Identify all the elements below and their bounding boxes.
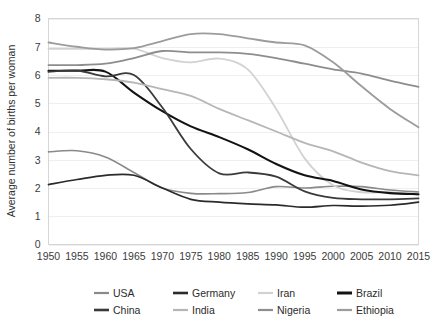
y-tick-label: 8 <box>35 12 41 24</box>
legend-item-ethiopia[interactable]: Ethiopia <box>337 304 394 316</box>
legend-item-china[interactable]: China <box>94 304 141 316</box>
y-tick-label: 2 <box>35 182 41 194</box>
x-tick-label: 1970 <box>151 250 175 262</box>
y-tick-label: 0 <box>35 238 41 250</box>
y-axis-tick-labels: 012345678 <box>35 12 41 250</box>
x-tick-label: 1955 <box>65 250 89 262</box>
legend-item-nigeria[interactable]: Nigeria <box>258 304 310 316</box>
legend-item-india[interactable]: India <box>173 304 215 316</box>
chart-container: 012345678 195019551960196519701975198019… <box>0 0 437 336</box>
legend-label: Germany <box>192 287 236 299</box>
legend-item-usa[interactable]: USA <box>94 287 135 299</box>
line-chart: 012345678 195019551960196519701975198019… <box>0 0 437 336</box>
y-tick-label: 5 <box>35 97 41 109</box>
legend-label: Iran <box>277 287 295 299</box>
x-tick-label: 1995 <box>293 250 317 262</box>
legend-item-brazil[interactable]: Brazil <box>337 287 382 299</box>
legend-label: Brazil <box>356 287 382 299</box>
x-tick-label: 1960 <box>94 250 118 262</box>
x-tick-label: 2015 <box>407 250 431 262</box>
series-line-nigeria <box>49 51 419 87</box>
y-tick-label: 7 <box>35 41 41 53</box>
series-line-china <box>49 70 419 199</box>
x-tick-label: 1965 <box>122 250 146 262</box>
series-line-usa <box>49 150 419 193</box>
legend-label: China <box>113 304 141 316</box>
chart-legend: USAGermanyIranBrazilChinaIndiaNigeriaEth… <box>94 287 394 316</box>
x-tick-label: 1990 <box>265 250 289 262</box>
x-tick-label: 2000 <box>321 250 345 262</box>
x-axis-tick-labels: 1950195519601965197019751980198519901995… <box>37 250 431 262</box>
x-tick-label: 2005 <box>350 250 374 262</box>
legend-item-iran[interactable]: Iran <box>258 287 295 299</box>
legend-label: Ethiopia <box>356 304 394 316</box>
x-tick-label: 1975 <box>179 250 203 262</box>
y-tick-label: 3 <box>35 154 41 166</box>
legend-label: USA <box>113 287 135 299</box>
y-tick-label: 1 <box>35 210 41 222</box>
y-tick-label: 4 <box>35 125 41 137</box>
legend-label: India <box>192 304 215 316</box>
legend-item-germany[interactable]: Germany <box>173 287 236 299</box>
y-tick-label: 6 <box>35 69 41 81</box>
y-axis-title: Average number of births per woman <box>5 45 17 218</box>
x-tick-label: 1950 <box>37 250 61 262</box>
legend-label: Nigeria <box>277 304 310 316</box>
x-tick-label: 1985 <box>236 250 260 262</box>
data-series-group <box>49 33 419 207</box>
x-tick-label: 1980 <box>208 250 232 262</box>
x-tick-label: 2010 <box>378 250 402 262</box>
